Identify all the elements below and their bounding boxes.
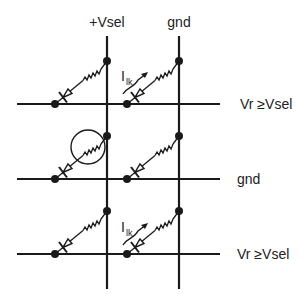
row-label-middle: gnd	[237, 171, 260, 187]
column-label-vsel: +Vsel	[89, 14, 124, 30]
cell-r2-c0	[51, 207, 111, 258]
svg-text:lk: lk	[126, 77, 133, 87]
svg-text:lk: lk	[126, 228, 133, 238]
crossbar-diagram: +Vsel gnd Vr ≥Vsel gnd Vr ≥Vsel	[0, 0, 303, 302]
leakage-current-bottom: I lk	[121, 219, 148, 245]
svg-text:I: I	[121, 219, 125, 235]
row-label-top: Vr ≥Vsel	[240, 96, 292, 112]
column-label-gnd: gnd	[167, 14, 190, 30]
svg-text:I: I	[121, 68, 125, 84]
cell-r0-c0	[51, 57, 111, 108]
cell-r1-c1	[123, 132, 183, 183]
row-label-bottom: Vr ≥Vsel	[237, 246, 289, 262]
